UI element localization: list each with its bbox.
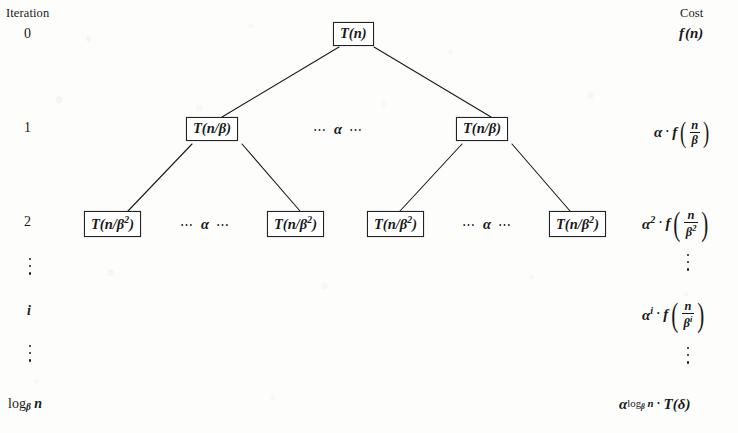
tree-node-level2-3: T(n/β2) [367, 211, 424, 237]
cost2-f: f [665, 215, 670, 232]
cost-level-log-beta-n: αlogβ n · T(δ) [619, 396, 690, 413]
costi-numerator: n [682, 300, 693, 313]
iteration-vdots-lower [29, 345, 31, 362]
separator-dots-right: ⋯ [216, 217, 230, 233]
recursion-tree-figure: Iteration Cost 0 1 2 i logβ n T(n) f(n) … [0, 0, 738, 433]
cost-level-2: α2 · f ( n β2 ) [642, 209, 711, 239]
l2-3-exp: 2 [407, 214, 412, 225]
costi-alpha-exp: i [650, 305, 653, 316]
sibling-separator-level2-a: ⋯ α ⋯ [180, 216, 230, 233]
tree-node-level1-right: T(n/β) [456, 117, 508, 141]
cost2-paren-open: ( [674, 210, 681, 238]
cost0-n: n [690, 25, 698, 42]
l2-2-arg: n [288, 216, 296, 232]
iteration-label-2: 2 [24, 214, 31, 230]
cost1-denominator: β [690, 132, 700, 146]
costL-alpha: α [619, 396, 627, 413]
l2-4-arg: n [570, 216, 578, 232]
l1-right-arg: n [477, 120, 485, 136]
l2-3-arg: n [388, 216, 396, 232]
cost-vdots-upper [687, 254, 689, 271]
tree-node-level2-2: T(n/β2) [267, 211, 324, 237]
sibling-separator-level2-b: ⋯ α ⋯ [462, 216, 512, 233]
costL-delta: δ [678, 396, 686, 412]
costL-alpha-exponent: logβ n [627, 397, 653, 411]
iteration-column-header: Iteration [6, 6, 49, 21]
cost1-paren-close: ) [703, 120, 709, 145]
cost-level-1: α · f ( n β ) [654, 119, 711, 147]
iteration-label-0: 0 [24, 26, 31, 42]
cost-level-0: f(n) [679, 25, 703, 42]
cost-vdots-lower [687, 347, 689, 364]
costi-fraction: n βi [682, 300, 695, 330]
separator-dots-left: ⋯ [180, 217, 194, 233]
l2-1-arg: n [105, 216, 113, 232]
sibling-separator-level1: ⋯ α ⋯ [313, 121, 363, 138]
cost2-denominator: β2 [684, 222, 699, 238]
cost2-dot: · [658, 215, 662, 230]
iteration-vdots-upper [29, 258, 31, 275]
costi-paren-open: ( [671, 301, 678, 329]
tree-node-level2-1: T(n/β2) [84, 211, 141, 237]
tree-node-level2-4: T(n/β2) [549, 211, 606, 237]
costi-f: f [663, 306, 668, 323]
iteration-label-log-beta-n: logβ n [8, 396, 42, 412]
costi-paren-close: ) [697, 301, 704, 329]
separator-dots-right: ⋯ [349, 122, 363, 138]
costL-log-base: β [641, 401, 645, 410]
separator-alpha: α [483, 216, 491, 233]
l2-2-exp: 2 [307, 214, 312, 225]
l1-left-arg: n [207, 120, 215, 136]
separator-alpha: α [201, 216, 209, 233]
log-argument-n: n [34, 396, 42, 411]
tree-node-root: T(n) [333, 22, 374, 46]
cost2-paren-close: ) [702, 210, 709, 238]
separator-alpha: α [334, 121, 342, 138]
cost2-alpha: α2 [642, 214, 655, 233]
costi-dot: · [656, 306, 660, 321]
root-arg: n [354, 25, 362, 41]
cost1-dot: · [665, 124, 669, 139]
iteration-label-i: i [27, 303, 31, 319]
log-base-beta: β [26, 402, 31, 412]
l2-1-exp: 2 [124, 214, 129, 225]
cost1-numerator: n [689, 119, 700, 132]
cost1-paren-open: ( [680, 120, 686, 145]
separator-dots-left: ⋯ [462, 217, 476, 233]
l2-4-exp: 2 [589, 214, 594, 225]
costi-alpha: αi [642, 305, 653, 324]
tree-node-level1-left: T(n/β) [186, 117, 238, 141]
cost-column-header: Cost [680, 6, 703, 21]
cost-level-i: αi · f ( n βi ) [642, 300, 707, 330]
cost1-f: f [672, 124, 677, 141]
cost1-alpha: α [654, 124, 662, 141]
costi-den-exp: i [690, 314, 692, 324]
cost2-alpha-exp: 2 [650, 214, 655, 225]
cost0-f: f [679, 25, 684, 42]
separator-dots-right: ⋯ [498, 217, 512, 233]
cost2-den-exp: 2 [692, 223, 696, 233]
iteration-label-1: 1 [24, 120, 31, 136]
separator-dots-left: ⋯ [313, 122, 327, 138]
costL-T: T(δ) [664, 396, 691, 413]
log-text: log [8, 396, 26, 411]
cost1-fraction: n β [689, 119, 700, 147]
costL-log-arg: n [648, 397, 654, 409]
costi-denominator: βi [682, 313, 695, 329]
cost2-numerator: n [686, 209, 697, 222]
cost2-fraction: n β2 [684, 209, 699, 239]
costL-dot: · [657, 396, 661, 411]
